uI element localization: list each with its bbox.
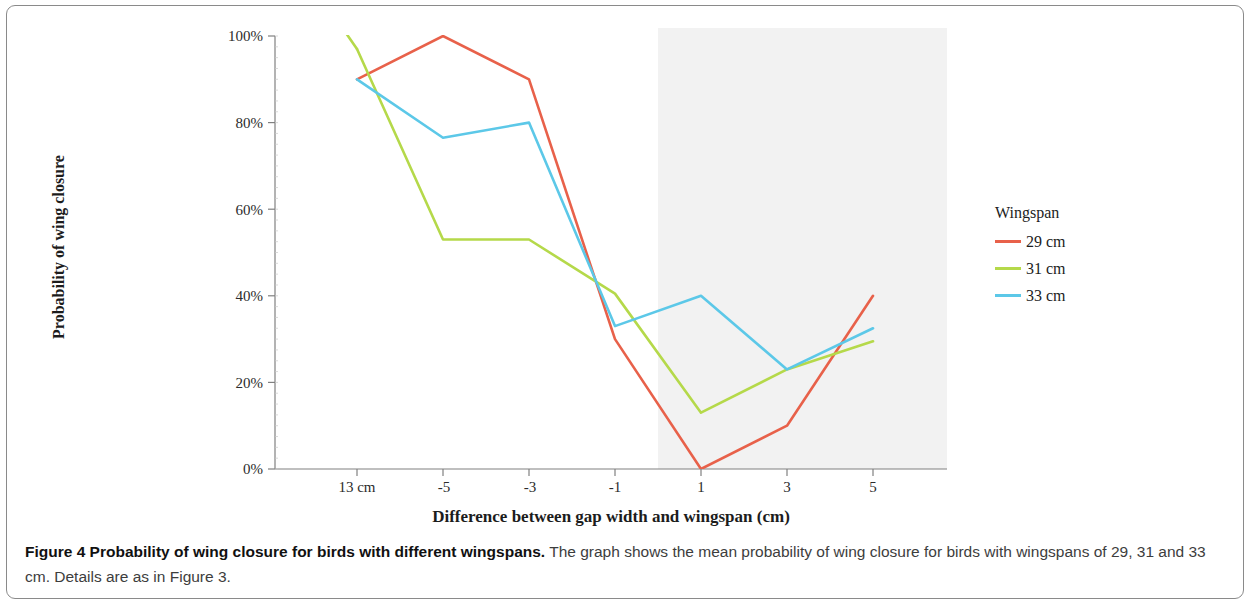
legend-swatch-29cm: [995, 240, 1021, 243]
chart-panel: Wider than wingspan 100% 80% 60% 40% 20%…: [7, 6, 1245, 526]
legend: Wingspan 29 cm 31 cm 33 cm: [995, 204, 1145, 309]
legend-label-31cm: 31 cm: [1026, 260, 1066, 278]
x-tick-label-6: 5: [833, 479, 913, 496]
x-tick-label-3: -1: [575, 479, 655, 496]
x-tick-label-1: -5: [404, 479, 484, 496]
y-tick-label-100: 100%: [203, 28, 263, 45]
legend-item-33cm[interactable]: 33 cm: [995, 282, 1145, 309]
x-axis-title: Difference between gap width and wingspa…: [275, 507, 947, 527]
y-tick-label-0: 0%: [203, 461, 263, 478]
figure-caption: Figure 4 Probability of wing closure for…: [25, 539, 1225, 589]
legend-title: Wingspan: [995, 204, 1145, 222]
legend-swatch-33cm: [995, 294, 1021, 297]
legend-item-29cm[interactable]: 29 cm: [995, 228, 1145, 255]
legend-label-29cm: 29 cm: [1026, 233, 1066, 251]
y-tick-label-80: 80%: [203, 115, 263, 132]
y-tick-label-40: 40%: [203, 288, 263, 305]
legend-label-33cm: 33 cm: [1026, 287, 1066, 305]
x-tick-label-2: -3: [490, 479, 570, 496]
x-tick-label-4: 1: [661, 479, 741, 496]
caption-title: Figure 4 Probability of wing closure for…: [25, 543, 545, 560]
y-tick-label-20: 20%: [203, 375, 263, 392]
legend-swatch-31cm: [995, 267, 1021, 270]
legend-item-31cm[interactable]: 31 cm: [995, 255, 1145, 282]
x-tick-label-0: 13 cm: [317, 479, 397, 496]
series-line-31-cm-lead-in: [339, 23, 357, 49]
x-tick-label-5: 3: [747, 479, 827, 496]
y-tick-label-60: 60%: [203, 202, 263, 219]
figure-card: Wider than wingspan 100% 80% 60% 40% 20%…: [6, 5, 1244, 599]
y-axis-title: Probability of wing closure: [50, 117, 68, 377]
